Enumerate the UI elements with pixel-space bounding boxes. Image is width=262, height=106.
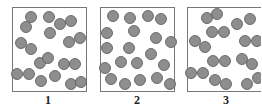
particle (124, 43, 135, 54)
particle (135, 75, 146, 86)
particle (24, 69, 35, 80)
particle (55, 19, 66, 30)
particle (221, 79, 232, 90)
particle (156, 14, 167, 25)
panel-label-2: 2 (134, 94, 140, 106)
particle (166, 37, 177, 48)
particle (252, 36, 262, 47)
particle (202, 13, 213, 24)
panel-1 (12, 8, 87, 92)
particle (59, 59, 70, 70)
particle (102, 28, 113, 39)
particle (253, 73, 262, 84)
particle (198, 68, 209, 79)
particle (165, 79, 176, 90)
panel-2 (100, 8, 177, 92)
particle (44, 12, 55, 23)
particle (66, 79, 77, 90)
particle (125, 13, 136, 24)
particle (50, 71, 61, 82)
particle (219, 27, 230, 38)
particle (208, 56, 219, 67)
particle (45, 28, 56, 39)
particle (232, 19, 243, 30)
particle (26, 44, 37, 55)
particle (247, 59, 258, 70)
particle (212, 9, 223, 20)
particle (245, 14, 256, 25)
particle (237, 54, 248, 65)
particle (36, 76, 47, 87)
particle (240, 36, 251, 47)
particle (43, 53, 54, 64)
particle (152, 73, 163, 84)
panel-3 (186, 8, 262, 92)
particle (186, 68, 197, 79)
particle (75, 33, 86, 44)
particle (66, 16, 77, 27)
particle (129, 26, 140, 37)
particle (64, 37, 75, 48)
particle (108, 11, 119, 22)
diagram: 1 2 3 (0, 0, 261, 106)
particle (102, 43, 113, 54)
particle (26, 12, 37, 23)
particle (210, 75, 221, 86)
particle (12, 69, 23, 80)
particle (146, 49, 157, 60)
particle (120, 79, 131, 90)
particle-boxes-figure (0, 0, 261, 106)
particle (70, 59, 81, 70)
particle (143, 11, 154, 22)
panel-label-1: 1 (45, 94, 51, 106)
particle (106, 74, 117, 85)
particle (190, 36, 201, 47)
particle (132, 58, 143, 69)
particle (242, 79, 253, 90)
particle (100, 63, 111, 74)
panel-label-3: 3 (223, 94, 229, 106)
particle (220, 56, 231, 67)
particle (207, 27, 218, 38)
particle (159, 60, 170, 71)
particle (151, 33, 162, 44)
particle (116, 57, 127, 68)
particle (76, 77, 87, 88)
particle (200, 42, 211, 53)
particle (16, 38, 27, 49)
particle (21, 22, 32, 33)
